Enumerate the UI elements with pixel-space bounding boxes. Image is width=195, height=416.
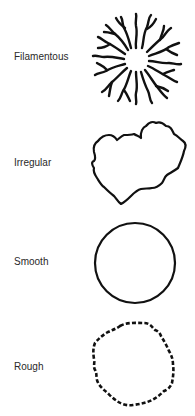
irregular-colony-shape [92,122,185,204]
smooth-colony-shape [95,223,175,303]
rough-colony-shape [93,323,173,405]
filamentous-colony-shape [93,14,181,104]
